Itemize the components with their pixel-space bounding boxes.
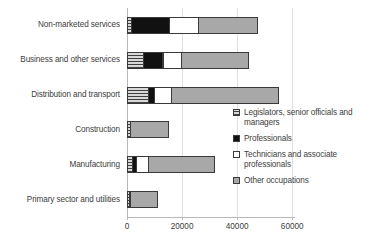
category-label: Business and other services <box>2 55 120 65</box>
bar-segment-technicians <box>169 17 199 34</box>
gridline <box>182 8 183 217</box>
bar-segment-other <box>130 191 159 208</box>
legend-label: Legislators, senior officials and manage… <box>244 108 379 128</box>
legend-item-other: Other occupations <box>233 176 379 186</box>
bar-stack <box>127 191 158 208</box>
bar-stack <box>127 52 248 69</box>
axis-tick <box>237 217 238 220</box>
bar-segment-legislators <box>127 87 149 104</box>
axis-tick <box>182 217 183 220</box>
category-label: Construction <box>2 125 120 135</box>
bar-segment-legislators <box>127 52 144 69</box>
value-axis-line <box>127 8 128 217</box>
legend-item-professionals: Professionals <box>233 134 379 144</box>
axis-tick <box>127 217 128 220</box>
bar-segment-other <box>198 17 257 34</box>
bar-chart: Non-marketed servicesBusiness and other … <box>0 0 379 247</box>
bar-stack <box>127 17 257 34</box>
bar-segment-technicians <box>136 156 148 173</box>
legend-label: Technicians and associate professionals <box>244 150 379 170</box>
bar-segment-professionals <box>143 52 164 69</box>
bar-stack <box>127 87 278 104</box>
legend-label: Professionals <box>244 134 292 144</box>
bar-segment-professionals <box>131 17 170 34</box>
bar-segment-other <box>181 52 248 69</box>
bar-segment-technicians <box>154 87 172 104</box>
category-axis-line <box>127 217 295 218</box>
chart-legend: Legislators, senior officials and manage… <box>233 108 379 192</box>
bar-stack <box>127 121 168 138</box>
category-label: Distribution and transport <box>2 90 120 100</box>
x-axis-tick-label: 60000 <box>281 222 304 231</box>
category-label: Primary sector and utilities <box>2 195 120 205</box>
legend-label: Other occupations <box>244 176 309 186</box>
bar-segment-other <box>130 121 169 138</box>
bar-segment-technicians <box>163 52 182 69</box>
legend-swatch-legislators <box>233 109 240 116</box>
x-axis-tick-label: 20000 <box>171 222 194 231</box>
x-axis-tick-label: 0 <box>125 222 130 231</box>
bar-segment-other <box>171 87 278 104</box>
category-axis-labels: Non-marketed servicesBusiness and other … <box>0 0 120 213</box>
legend-swatch-professionals <box>233 135 240 142</box>
legend-item-technicians: Technicians and associate professionals <box>233 150 379 170</box>
bar-segment-other <box>148 156 215 173</box>
category-label: Non-marketed services <box>2 20 120 30</box>
bar-stack <box>127 156 215 173</box>
axis-tick <box>292 217 293 220</box>
category-label: Manufacturing <box>2 160 120 170</box>
legend-swatch-other <box>233 177 240 184</box>
legend-swatch-technicians <box>233 151 240 158</box>
legend-item-legislators: Legislators, senior officials and manage… <box>233 108 379 128</box>
x-axis-tick-label: 40000 <box>226 222 249 231</box>
